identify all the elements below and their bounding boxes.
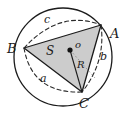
radius-label-r: R bbox=[77, 60, 85, 70]
area-label-s: S bbox=[46, 45, 54, 57]
vertex-label-b: B bbox=[7, 42, 17, 55]
side-label-a: a bbox=[40, 73, 47, 84]
center-label-o: o bbox=[75, 40, 81, 50]
side-label-c: c bbox=[44, 14, 50, 25]
figure-canvas bbox=[0, 0, 132, 114]
vertex-label-a: A bbox=[110, 27, 119, 40]
side-label-b: b bbox=[100, 51, 107, 62]
vertex-label-c: C bbox=[79, 97, 89, 110]
geometry-figure: A B C a b c o S R bbox=[0, 0, 132, 114]
circle-center-dot bbox=[67, 47, 72, 52]
